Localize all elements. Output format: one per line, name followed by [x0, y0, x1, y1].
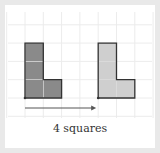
- original-l-shape-cell: [25, 61, 43, 79]
- diagram-frame: 4 squares: [0, 0, 160, 153]
- original-l-shape-cell: [25, 80, 43, 98]
- arrow-head-icon: [91, 106, 96, 111]
- original-l-shape-cell: [25, 43, 43, 61]
- translated-l-shape-cell: [117, 80, 135, 98]
- original-l-shape-cell: [43, 80, 61, 98]
- translated-l-shape-anchor-point: [97, 97, 100, 100]
- translated-l-shape-cell: [98, 43, 116, 61]
- original-l-shape-anchor-point: [24, 97, 27, 100]
- translation-caption: 4 squares: [0, 122, 160, 135]
- translated-l-shape-cell: [98, 61, 116, 79]
- translated-l-shape-cell: [98, 80, 116, 98]
